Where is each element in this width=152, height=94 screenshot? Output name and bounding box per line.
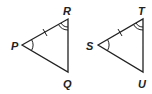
vertex-label-q: Q [63, 78, 72, 90]
triangle-sut: S T U [86, 5, 147, 90]
vertex-label-u: U [138, 78, 147, 90]
angle-r-arc-inner [61, 23, 68, 27]
angle-t-arc-inner [136, 23, 143, 27]
vertex-label-r: R [63, 5, 71, 17]
congruent-triangles-diagram: P R Q S T U [0, 0, 152, 94]
triangle-pqr: P R Q [11, 5, 72, 90]
vertex-label-s: S [86, 40, 94, 52]
vertex-label-p: P [11, 40, 19, 52]
angle-s-arc [108, 40, 109, 51]
angle-p-arc [32, 40, 33, 51]
triangle-sut-outline [98, 19, 143, 72]
triangle-pqr-outline [22, 19, 68, 72]
vertex-label-t: T [138, 5, 146, 17]
